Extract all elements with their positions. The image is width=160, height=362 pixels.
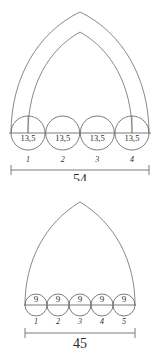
circle-label-2: 13,5: [55, 133, 70, 143]
upper-arch-svg: 13,5 13,5 13,5 13,5 1 2 3 4 54: [0, 0, 160, 181]
index-label-3: 3: [94, 155, 99, 164]
circle-label-1: 9: [34, 294, 39, 304]
circle-label-3: 13,5: [90, 133, 105, 143]
circle-label-2: 9: [56, 294, 61, 304]
index-label-1: 1: [34, 317, 38, 326]
circle-label-4: 13,5: [125, 133, 140, 143]
diagram-page: 13,5 13,5 13,5 13,5 1 2 3 4 54: [0, 0, 160, 362]
outer-arch-left-curve: [11, 12, 80, 133]
circle-label-5: 9: [122, 294, 127, 304]
arch-left-curve: [25, 202, 80, 305]
total-dimension-label: 45: [73, 336, 87, 351]
index-label-2: 2: [61, 155, 65, 164]
index-label-4: 4: [130, 155, 134, 164]
outer-arch-right-curve: [80, 12, 149, 133]
circle-label-3: 9: [78, 294, 83, 304]
upper-arch-figure: 13,5 13,5 13,5 13,5 1 2 3 4 54: [0, 0, 160, 181]
circle-label-1: 13,5: [21, 133, 36, 143]
index-label-2: 2: [56, 317, 60, 326]
index-label-1: 1: [26, 155, 30, 164]
circle-label-4: 9: [100, 294, 105, 304]
lower-arch-svg: 9 9 9 9 9 1 2 3 4 5 45: [0, 181, 160, 362]
index-label-4: 4: [100, 317, 104, 326]
index-label-5: 5: [122, 317, 126, 326]
arch-right-curve: [80, 202, 135, 305]
index-label-3: 3: [77, 317, 82, 326]
lower-arch-figure: 9 9 9 9 9 1 2 3 4 5 45: [0, 181, 160, 362]
total-dimension-label: 54: [73, 172, 87, 181]
